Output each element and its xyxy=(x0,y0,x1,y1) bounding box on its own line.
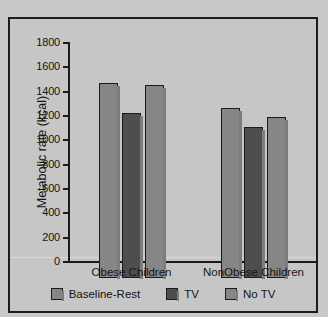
chart-figure: Metabolic rate (kcal) 180016001400120010… xyxy=(0,0,328,317)
legend-label: TV xyxy=(184,288,199,300)
y-tick xyxy=(63,164,69,166)
legend-swatch-shadow xyxy=(236,291,238,301)
bar-shadow xyxy=(262,130,265,279)
y-tick-label: 0 xyxy=(54,255,60,267)
legend-swatch-shadow xyxy=(177,291,179,301)
y-tick-label: 1800 xyxy=(36,36,60,48)
y-axis-label-wrapper: Metabolic rate (kcal) xyxy=(32,42,52,261)
legend-swatch xyxy=(51,288,63,300)
legend-label: No TV xyxy=(243,288,275,300)
bar xyxy=(99,83,118,278)
y-tick-label: 800 xyxy=(42,158,60,170)
legend-label: Baseline-Rest xyxy=(69,288,141,300)
chart-legend: Baseline-RestTVNo TV xyxy=(8,283,318,305)
bar xyxy=(244,127,263,278)
y-axis-line xyxy=(68,42,70,261)
x-category-label: Obese Children xyxy=(92,266,172,278)
y-tick-label: 600 xyxy=(42,182,60,194)
y-tick xyxy=(63,188,69,190)
chart-panel: Metabolic rate (kcal) 180016001400120010… xyxy=(8,17,318,313)
y-tick-label: 400 xyxy=(42,206,60,218)
bar-shadow xyxy=(117,86,120,279)
y-tick xyxy=(63,91,69,93)
y-tick xyxy=(63,237,69,239)
legend-item[interactable]: TV xyxy=(166,288,199,300)
legend-item[interactable]: Baseline-Rest xyxy=(51,288,141,300)
y-tick-label: 1600 xyxy=(36,60,60,72)
legend-swatch xyxy=(166,288,178,300)
y-tick-label: 1400 xyxy=(36,85,60,97)
y-tick xyxy=(63,139,69,141)
legend-swatch-shadow xyxy=(62,291,64,301)
y-tick-label: 200 xyxy=(42,231,60,243)
bar xyxy=(221,108,240,278)
bar xyxy=(122,113,141,278)
bar-shadow xyxy=(140,116,143,279)
y-tick xyxy=(63,66,69,68)
bar-shadow xyxy=(163,88,166,279)
plot-area: 180016001400120010008006004002000 Obese … xyxy=(68,42,316,278)
legend-swatch xyxy=(225,288,237,300)
legend-item[interactable]: No TV xyxy=(225,288,275,300)
y-tick-label: 1000 xyxy=(36,133,60,145)
y-tick xyxy=(63,261,69,263)
bar xyxy=(267,117,286,278)
bar-shadow xyxy=(239,111,242,279)
y-tick xyxy=(63,115,69,117)
x-category-label: NonObese Children xyxy=(203,266,304,278)
bar xyxy=(145,85,164,278)
y-tick-label: 1200 xyxy=(36,109,60,121)
y-tick xyxy=(63,212,69,214)
y-tick xyxy=(63,42,69,44)
bar-shadow xyxy=(285,120,288,279)
